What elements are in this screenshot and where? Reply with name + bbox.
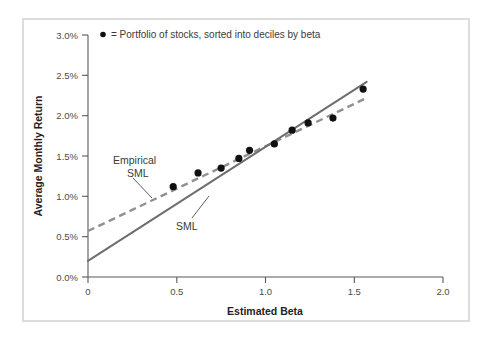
y-axis-title: Average Monthly Return bbox=[32, 96, 44, 217]
y-tick-group bbox=[82, 35, 88, 277]
empirical-sml-leader-line bbox=[133, 178, 152, 198]
x-tick-group bbox=[88, 277, 443, 283]
figure-root: 0.0% 0.5% 1.0% 1.5% 2.0% 2.5% 3.0% 0 0.5… bbox=[0, 0, 492, 338]
sml-label: SML bbox=[176, 220, 198, 232]
y-ticklabel-5: 2.5% bbox=[56, 70, 78, 81]
data-point bbox=[360, 85, 367, 92]
data-point bbox=[329, 114, 336, 121]
x-ticklabel-3: 1.5 bbox=[348, 286, 361, 297]
legend-marker-dot-icon bbox=[100, 32, 106, 38]
y-ticklabel-4: 2.0% bbox=[56, 110, 78, 121]
legend: = Portfolio of stocks, sorted into decil… bbox=[100, 29, 321, 40]
sml-leader-line bbox=[192, 196, 209, 218]
x-ticklabel-1: 0.5 bbox=[170, 286, 183, 297]
x-ticklabel-4: 2.0 bbox=[436, 286, 449, 297]
data-point bbox=[305, 119, 312, 126]
empirical-sml-label-line1: Empirical bbox=[113, 154, 156, 166]
y-ticklabel-group: 0.0% 0.5% 1.0% 1.5% 2.0% 2.5% 3.0% bbox=[56, 30, 78, 283]
data-point bbox=[235, 155, 242, 162]
legend-label: = Portfolio of stocks, sorted into decil… bbox=[111, 29, 321, 40]
y-ticklabel-6: 3.0% bbox=[56, 30, 78, 41]
data-point bbox=[289, 127, 296, 134]
y-ticklabel-2: 1.0% bbox=[56, 191, 78, 202]
empirical-sml-label-line2: SML bbox=[127, 167, 149, 179]
y-ticklabel-0: 0.0% bbox=[56, 272, 78, 283]
x-ticklabel-0: 0 bbox=[85, 286, 90, 297]
y-ticklabel-3: 1.5% bbox=[56, 151, 78, 162]
data-point bbox=[271, 140, 278, 147]
y-ticklabel-1: 0.5% bbox=[56, 231, 78, 242]
data-point bbox=[246, 147, 253, 154]
data-point bbox=[194, 169, 201, 176]
x-ticklabel-group: 0 0.5 1.0 1.5 2.0 bbox=[85, 286, 449, 297]
data-point bbox=[170, 183, 177, 190]
x-ticklabel-2: 1.0 bbox=[259, 286, 272, 297]
x-axis-title: Estimated Beta bbox=[227, 305, 303, 317]
data-point bbox=[218, 165, 225, 172]
security-market-line-chart: 0.0% 0.5% 1.0% 1.5% 2.0% 2.5% 3.0% 0 0.5… bbox=[0, 0, 492, 338]
